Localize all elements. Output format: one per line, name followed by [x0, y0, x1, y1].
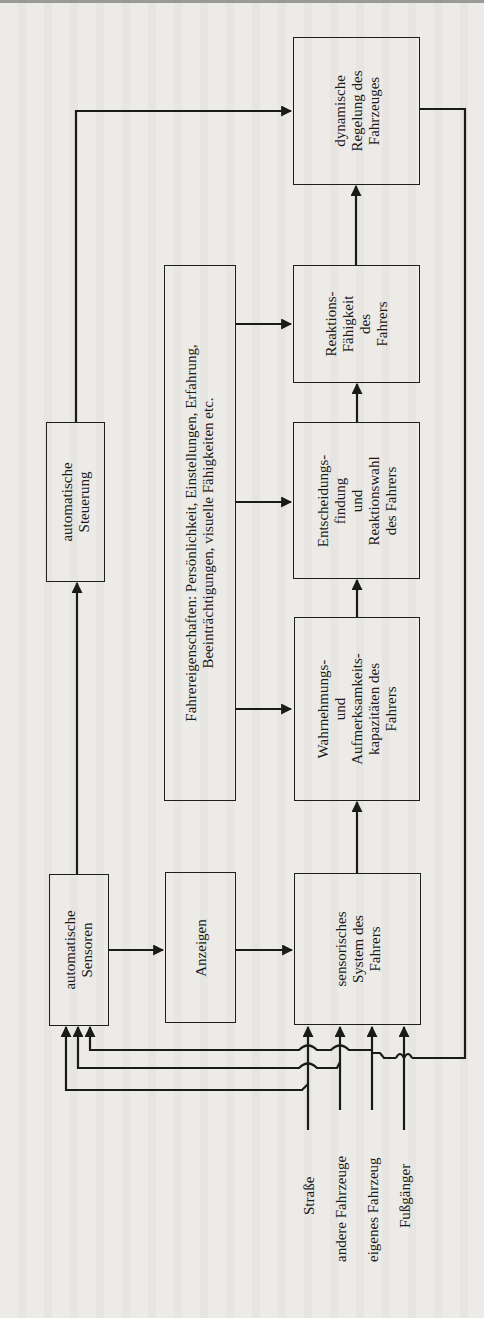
box-label-line: und — [332, 653, 349, 765]
box-label-line: Fähigkeit — [340, 292, 357, 357]
box-label-line: Steuerung — [76, 462, 93, 541]
box-label-line: Fahrzeuges — [365, 70, 382, 151]
input-label-eigenes-fahrzeug: eigenes Fahrzeug — [365, 1157, 381, 1262]
box-label-line: Reaktionswahl — [365, 454, 382, 546]
box-label-line: Wahrnehmungs- — [315, 653, 332, 765]
box-wahrnehmung: Wahrnehmungs- und Aufmerksamkeits- kapaz… — [294, 617, 420, 801]
box-label-line: Reaktions- — [323, 292, 340, 357]
box-label-line: Regelung des — [348, 70, 365, 151]
box-anzeigen: Anzeigen — [165, 872, 236, 1023]
box-label-line: dynamische — [331, 70, 348, 151]
box-label-line: Fahrers — [383, 653, 400, 765]
box-label-line: Entscheidungs- — [314, 454, 331, 546]
input-label-andere-fahrzeuge: andere Fahrzeuge — [333, 1156, 349, 1262]
box-reaktionsfaehigkeit: Reaktions- Fähigkeit des Fahrers — [293, 265, 420, 383]
box-label-line: des Fahrers — [382, 454, 399, 546]
box-label-line: Fahrers — [366, 912, 383, 987]
box-fahrereigenschaften: Fahrereigenschaften: Persönlichkeit, Ein… — [164, 265, 236, 801]
input-label-strasse: Straße — [301, 1177, 317, 1215]
box-automatische-sensoren: automatische Sensoren — [49, 874, 109, 1026]
box-label-line: automatische — [62, 910, 79, 989]
box-label-line: findung — [331, 454, 348, 546]
box-label-line: Anzeigen — [192, 919, 209, 976]
box-label-line: sensorisches — [332, 912, 349, 987]
box-label-line: Fahrereigenschaften: Persönlichkeit, Ein… — [183, 344, 200, 721]
box-label-line: System des — [349, 912, 366, 987]
box-label-line: Sensoren — [79, 910, 96, 989]
box-automatische-steuerung: automatische Steuerung — [46, 422, 105, 582]
box-label-line: und — [348, 454, 365, 546]
box-label-line: Aufmerksamkeits- — [349, 653, 366, 765]
input-label-fussgaenger: Fußgänger — [397, 1164, 413, 1228]
box-label-line: automatische — [59, 462, 76, 541]
box-entscheidungsfindung: Entscheidungs- findung und Reaktionswahl… — [293, 422, 420, 579]
box-dynamische-regelung: dynamische Regelung des Fahrzeuges — [293, 37, 420, 185]
box-label-line: des — [357, 292, 374, 357]
box-label-line: Fahrers — [374, 292, 391, 357]
box-label-line: Beeinträchtigungen, visuelle Fähigkeiten… — [200, 344, 217, 721]
box-label-line: kapazitäten des — [366, 653, 383, 765]
box-sensorisches-system: sensorisches System des Fahrers — [294, 873, 421, 1025]
